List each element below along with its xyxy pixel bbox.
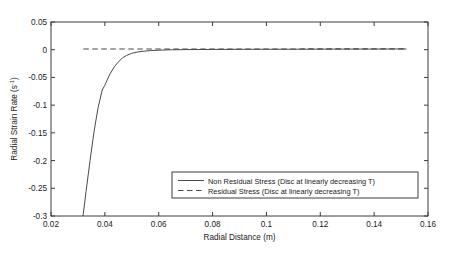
- x-axis-title: Radial Distance (m): [204, 233, 276, 242]
- legend-label-1: Residual Stress (Disc at linearly decrea…: [208, 187, 359, 196]
- y-tick-label: 0: [42, 46, 47, 55]
- y-tick-label: -0.2: [33, 157, 48, 166]
- legend-label-0: Non Residual Stress (Disc at linearly de…: [208, 177, 375, 186]
- figure-background: [0, 0, 453, 255]
- y-tick-label: -0.15: [28, 129, 47, 138]
- x-tick-label: 0.06: [151, 220, 167, 229]
- x-tick-label: 0.1: [261, 220, 273, 229]
- x-tick-label: 0.08: [205, 220, 221, 229]
- y-axis-title-base: Radial Strain Rate (s: [10, 85, 19, 161]
- chart-svg: 0.020.040.060.080.10.120.140.16 0.050-0.…: [0, 0, 453, 255]
- y-tick-label: -0.1: [33, 101, 48, 110]
- y-tick-label: -0.05: [28, 73, 47, 82]
- y-tick-label: 0.05: [31, 18, 47, 27]
- x-tick-label: 0.04: [97, 220, 113, 229]
- x-tick-label: 0.16: [420, 220, 436, 229]
- x-tick-label: 0.14: [366, 220, 382, 229]
- y-tick-label: -0.25: [28, 184, 47, 193]
- svg-text:Radial Strain Rate (s-1): Radial Strain Rate (s-1): [9, 77, 19, 161]
- x-tick-label: 0.02: [43, 220, 59, 229]
- y-axis-title-tail: ): [10, 77, 19, 80]
- chart-figure: 0.020.040.060.080.10.120.140.16 0.050-0.…: [0, 0, 453, 255]
- x-tick-label: 0.12: [312, 220, 328, 229]
- y-tick-label: -0.3: [33, 212, 48, 221]
- legend: Non Residual Stress (Disc at linearly de…: [172, 172, 418, 198]
- y-axis-title: Radial Strain Rate (s-1): [9, 77, 19, 161]
